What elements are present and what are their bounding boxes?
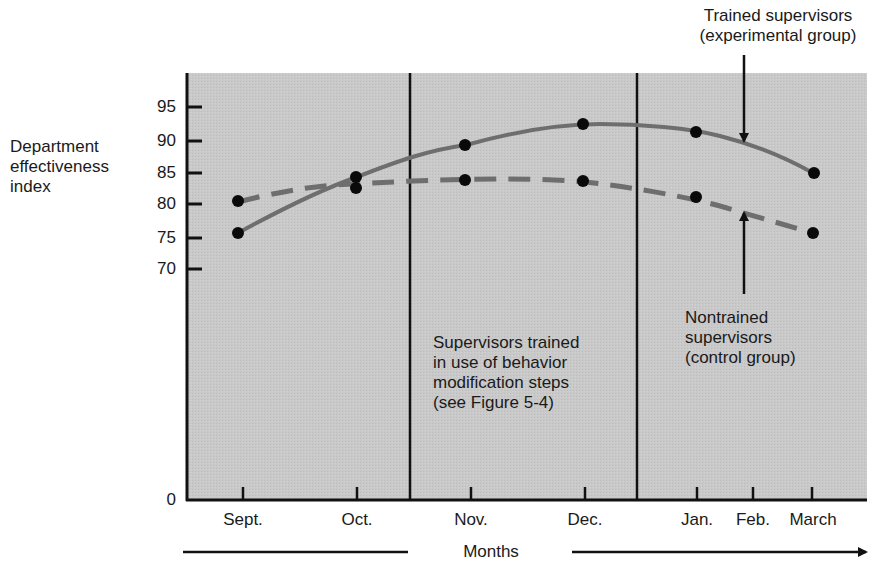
y-axis-label: Department effectiveness index xyxy=(10,137,109,197)
x-tick-dec: Dec. xyxy=(545,510,625,530)
training-annotation-line: (see Figure 5-4) xyxy=(433,393,579,413)
nontrained-annotation: Nontrained supervisors (control group) xyxy=(685,308,796,368)
training-annotation-line: in use of behavior xyxy=(433,353,579,373)
training-annotation-line: Supervisors trained xyxy=(433,333,579,353)
y-axis-label-line: Department xyxy=(10,137,109,157)
y-tick-70: 70 xyxy=(142,259,176,279)
trained-annotation: Trained supervisors (experimental group) xyxy=(678,6,878,46)
nontrained-annotation-line: supervisors xyxy=(685,328,796,348)
y-tick-95: 95 xyxy=(142,97,176,117)
y-tick-75: 75 xyxy=(142,228,176,248)
y-tick-90: 90 xyxy=(142,131,176,151)
y-axis-label-line: effectiveness xyxy=(10,157,109,177)
y-tick-80: 80 xyxy=(142,194,176,214)
x-tick-nov: Nov. xyxy=(431,510,511,530)
x-tick-oct: Oct. xyxy=(317,510,397,530)
y-axis-label-line: index xyxy=(10,177,109,197)
trained-annotation-line: (experimental group) xyxy=(678,26,878,46)
training-annotation-line: modification steps xyxy=(433,373,579,393)
chart-canvas xyxy=(0,0,887,567)
y-tick-85: 85 xyxy=(142,163,176,183)
trained-annotation-line: Trained supervisors xyxy=(678,6,878,26)
x-tick-march: March xyxy=(778,510,848,530)
y-tick-0: 0 xyxy=(142,490,176,510)
plot-area xyxy=(187,73,867,500)
x-axis-label: Months xyxy=(412,542,570,562)
nontrained-annotation-line: (control group) xyxy=(685,348,796,368)
training-period-annotation: Supervisors trained in use of behavior m… xyxy=(433,333,579,413)
x-tick-sept: Sept. xyxy=(203,510,283,530)
nontrained-annotation-line: Nontrained xyxy=(685,308,796,328)
x-tick-feb: Feb. xyxy=(719,510,787,530)
